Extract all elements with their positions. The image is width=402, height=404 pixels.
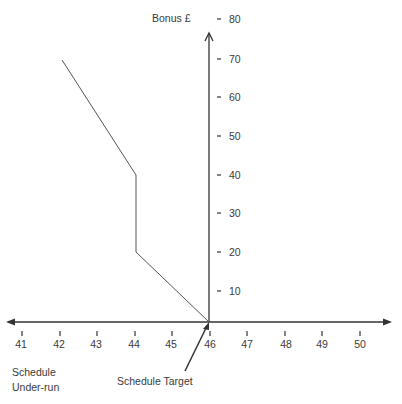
x-tick-label: 48 (280, 338, 292, 350)
x-tick-label: 49 (316, 338, 328, 350)
y-tick-label: 60 (229, 91, 241, 103)
y-tick-label: 30 (229, 207, 241, 219)
y-tick-label: 50 (229, 130, 241, 142)
y-tick-label: 20 (229, 246, 241, 258)
target-arrowhead-icon (203, 322, 209, 330)
x-axis-right-arrow-icon (383, 319, 392, 326)
x-tick-label: 46 (204, 338, 216, 350)
x-tick-label: 50 (354, 338, 366, 350)
x-axis-label-line2: Under-run (12, 381, 59, 393)
x-ticks (22, 331, 360, 336)
y-axis-label: Bonus £ (152, 12, 191, 24)
y-tick-label: 80 (229, 13, 241, 25)
x-tick-label: 45 (165, 338, 177, 350)
x-tick-label: 42 (53, 338, 65, 350)
x-axis-label-line1: Schedule (12, 366, 56, 378)
x-axis-left-arrow-icon (6, 319, 15, 326)
y-tick-label: 70 (229, 53, 241, 65)
y-tick-label: 10 (229, 285, 241, 297)
x-tick-label: 43 (90, 338, 102, 350)
bonus-line (62, 60, 209, 322)
x-tick-label: 41 (15, 338, 27, 350)
y-tick-label: 40 (229, 169, 241, 181)
schedule-target-label: Schedule Target (117, 375, 193, 387)
x-tick-label: 44 (128, 338, 140, 350)
x-tick-label: 47 (241, 338, 253, 350)
y-ticks (217, 19, 221, 291)
